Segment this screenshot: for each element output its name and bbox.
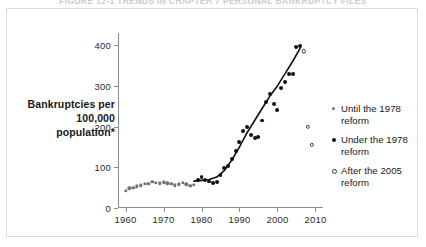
y-axis-tick — [114, 208, 118, 209]
x-axis-tick — [164, 208, 165, 212]
data-point — [291, 72, 295, 76]
y-axis-tick — [114, 167, 118, 168]
y-axis-tick-label: 100 — [95, 162, 111, 173]
x-axis-tick — [277, 208, 278, 212]
trend-polyline — [194, 48, 300, 181]
plot-area: 0100200300400196019701980199020002010 — [118, 33, 323, 208]
x-axis-tick-label: 1980 — [191, 214, 213, 225]
y-axis-tick — [114, 127, 118, 128]
y-axis-tick — [114, 45, 118, 46]
y-axis-label: Bankruptcies per 100,000 population* — [19, 97, 115, 139]
y-axis-tick-label: 300 — [95, 80, 111, 91]
figure-container: FIGURE 12-1 TRENDS IN CHAPTER 7 PERSONAL… — [0, 0, 426, 247]
data-point — [234, 149, 238, 153]
y-axis-tick — [114, 86, 118, 87]
data-point — [260, 119, 264, 123]
x-axis-tick-label: 1970 — [153, 214, 175, 225]
figure-title: FIGURE 12-1 TRENDS IN CHAPTER 7 PERSONAL… — [0, 0, 426, 6]
data-point — [268, 92, 272, 96]
y-axis-tick-label: 400 — [95, 40, 111, 51]
y-axis-tick-label: 200 — [95, 121, 111, 132]
legend-label: Under the 1978 reform — [341, 134, 424, 157]
data-point — [226, 165, 230, 169]
x-axis-tick-label: 2000 — [266, 214, 288, 225]
x-axis-tick-label: 1960 — [115, 214, 137, 225]
legend: Until the 1978 reform Under the 1978 ref… — [332, 103, 424, 188]
data-point — [275, 108, 279, 112]
data-point — [230, 157, 234, 161]
x-axis-tick — [202, 208, 203, 212]
x-axis-tick-label: 2010 — [304, 214, 326, 225]
y-axis-tick-label: 0 — [106, 203, 111, 214]
data-point — [196, 178, 200, 182]
data-point — [215, 180, 219, 184]
x-axis-tick — [315, 208, 316, 212]
x-axis-tick — [126, 208, 127, 212]
legend-item-until-1978: Until the 1978 reform — [332, 103, 424, 126]
data-point — [241, 129, 245, 133]
chart-panel: Bankruptcies per 100,000 population* 010… — [6, 8, 418, 237]
legend-item-under-1978: Under the 1978 reform — [332, 134, 424, 157]
filled-black-dot-icon — [332, 134, 341, 142]
small-gray-dot-icon — [332, 103, 341, 110]
hollow-circle-icon — [332, 165, 341, 174]
data-point — [264, 100, 268, 104]
data-point — [279, 86, 283, 90]
data-point — [272, 102, 276, 106]
data-point — [298, 44, 302, 48]
x-axis-tick — [239, 208, 240, 212]
legend-label: After the 2005 reform — [341, 165, 424, 188]
legend-item-after-2005: After the 2005 reform — [332, 165, 424, 188]
data-point — [283, 80, 287, 84]
data-point — [238, 140, 242, 144]
legend-label: Until the 1978 reform — [341, 103, 424, 126]
data-point — [257, 135, 261, 139]
data-point — [219, 173, 223, 177]
data-point — [245, 125, 249, 129]
x-axis-tick-label: 1990 — [229, 214, 251, 225]
